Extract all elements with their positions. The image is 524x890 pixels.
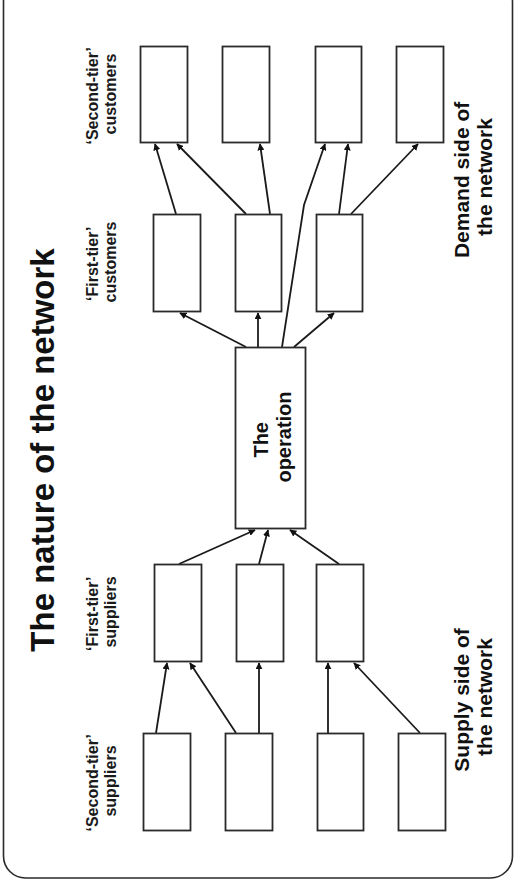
node-first-tier-customer-1 <box>154 215 201 312</box>
label-first-tier-customers: ‘First-tier’ customers <box>84 221 119 302</box>
node-first-tier-supplier-1 <box>155 565 202 662</box>
node-second-tier-supplier-1 <box>144 734 191 831</box>
label-first-tier-suppliers: ‘First-tier’ suppliers <box>84 573 119 651</box>
node-second-tier-supplier-3 <box>318 734 364 831</box>
label-supply-side: Supply side of the network <box>450 622 496 771</box>
node-second-tier-customer-4 <box>397 47 444 143</box>
label-demand-side: Demand side of the network <box>450 96 496 258</box>
node-second-tier-customer-2 <box>223 47 270 143</box>
node-first-tier-supplier-2 <box>237 565 284 662</box>
label-second-tier-suppliers: ‘Second-tier’ suppliers <box>84 730 119 831</box>
diagram-title: The nature of the network <box>24 248 61 652</box>
node-second-tier-customer-1 <box>141 47 188 143</box>
node-second-tier-supplier-2 <box>226 734 273 831</box>
label-second-tier-customers: ‘Second-tier’ customers <box>84 43 119 144</box>
node-second-tier-customer-3 <box>316 47 362 143</box>
node-first-tier-customer-2 <box>236 215 282 312</box>
network-diagram: The nature of the network ‘Second-tier’ … <box>0 0 524 890</box>
node-first-tier-supplier-3 <box>317 565 364 662</box>
node-second-tier-supplier-4 <box>399 734 446 831</box>
node-first-tier-customer-3 <box>317 215 363 312</box>
